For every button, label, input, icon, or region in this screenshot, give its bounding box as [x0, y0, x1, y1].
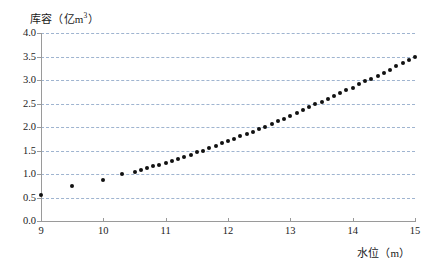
y-tick-label: 1.5 [2, 146, 36, 156]
data-point [195, 150, 199, 154]
x-tick-label: 13 [275, 225, 305, 237]
y-tick-label-wrap: 2.5 [0, 99, 36, 109]
data-point [413, 55, 417, 59]
y-tick-label: 0.5 [2, 193, 36, 203]
x-axis-line [41, 221, 415, 222]
data-point [376, 74, 380, 78]
data-point [295, 111, 299, 115]
data-point [251, 130, 255, 134]
data-point [133, 170, 137, 174]
data-point [394, 64, 398, 68]
data-point [101, 178, 105, 182]
data-point [270, 122, 274, 126]
data-point [382, 71, 386, 75]
data-point [220, 141, 224, 145]
y-tick-label: 4.0 [2, 28, 36, 38]
data-point [338, 91, 342, 95]
data-point [257, 127, 261, 131]
y-tick-label-wrap: 1.0 [0, 169, 36, 179]
x-tick-mark [415, 218, 416, 222]
data-point [189, 153, 193, 157]
data-point [151, 164, 155, 168]
data-point [226, 139, 230, 143]
plot-area [41, 33, 415, 221]
data-point [351, 86, 355, 90]
data-point [276, 119, 280, 123]
data-point [120, 172, 124, 176]
y-axis-title-main: 库容（亿m [30, 13, 84, 25]
x-tick-label: 15 [400, 225, 430, 237]
data-point [407, 58, 411, 62]
data-point [139, 168, 143, 172]
data-point [288, 114, 292, 118]
data-point [207, 146, 211, 150]
data-point [357, 82, 361, 86]
y-tick-label-wrap: 2.0 [0, 122, 36, 132]
data-point [301, 108, 305, 112]
data-point [307, 105, 311, 109]
data-point [401, 61, 405, 65]
data-point [344, 88, 348, 92]
x-tick-label: 11 [151, 225, 181, 237]
y-tick-label-wrap: 0.5 [0, 193, 36, 203]
data-point [214, 144, 218, 148]
y-tick-label-wrap: 3.0 [0, 75, 36, 85]
data-point [320, 100, 324, 104]
x-axis-title: 水位（m） [357, 244, 411, 260]
data-point [245, 132, 249, 136]
data-point [39, 193, 43, 197]
data-point [369, 77, 373, 81]
y-axis-title-tail: ） [88, 13, 99, 25]
data-point [70, 184, 74, 188]
y-tick-label-wrap: 3.5 [0, 52, 36, 62]
data-point [182, 155, 186, 159]
data-point [170, 159, 174, 163]
data-point [363, 79, 367, 83]
data-point [263, 125, 267, 129]
data-point [332, 94, 336, 98]
chart-figure: 库容（亿m3） 水位（m） 0.00.51.01.52.02.53.03.54.… [0, 0, 433, 273]
y-tick-label: 3.5 [2, 52, 36, 62]
data-point [201, 149, 205, 153]
x-tick-label: 10 [88, 225, 118, 237]
y-tick-label: 3.0 [2, 75, 36, 85]
y-axis-title: 库容（亿m3） [30, 10, 99, 26]
y-tick-label: 2.5 [2, 99, 36, 109]
data-point [282, 117, 286, 121]
x-tick-label: 9 [26, 225, 56, 237]
data-point [313, 102, 317, 106]
data-point [232, 137, 236, 141]
y-tick-label: 1.0 [2, 169, 36, 179]
data-point [145, 166, 149, 170]
y-tick-label: 2.0 [2, 122, 36, 132]
data-point [388, 68, 392, 72]
data-point [164, 161, 168, 165]
y-tick-label-wrap: 4.0 [0, 28, 36, 38]
data-point [238, 134, 242, 138]
data-point [326, 97, 330, 101]
data-point [157, 163, 161, 167]
y-tick-label-wrap: 1.5 [0, 146, 36, 156]
x-tick-label: 14 [338, 225, 368, 237]
data-point [176, 157, 180, 161]
x-tick-label: 12 [213, 225, 243, 237]
